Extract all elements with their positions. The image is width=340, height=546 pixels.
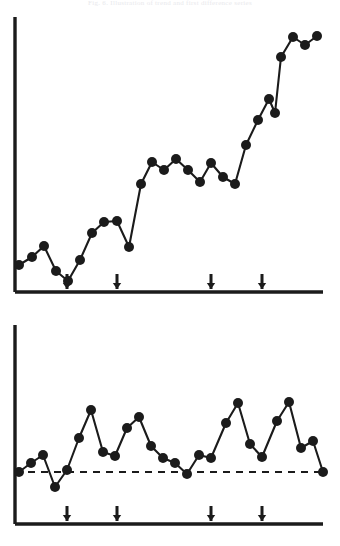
data-point-marker	[124, 242, 134, 252]
data-point-marker	[241, 140, 251, 150]
data-point-marker	[276, 52, 286, 62]
data-point-marker	[39, 241, 49, 251]
top-panel-chart	[0, 0, 340, 300]
arrow-up-icon-head	[258, 283, 266, 289]
data-point-marker	[134, 412, 144, 422]
data-line	[19, 36, 317, 281]
data-point-marker	[264, 94, 274, 104]
arrow-up-icon-head	[207, 515, 215, 521]
data-point-marker	[75, 255, 85, 265]
data-point-marker	[284, 397, 294, 407]
data-point-marker	[270, 108, 280, 118]
figure-root: Fig. 6. Illustration of trend and first …	[0, 0, 340, 546]
data-point-marker	[14, 467, 24, 477]
data-point-marker	[62, 465, 72, 475]
data-point-marker	[99, 217, 109, 227]
data-point-marker	[253, 115, 263, 125]
data-point-marker	[194, 450, 204, 460]
data-point-marker	[171, 154, 181, 164]
bottom-panel-event-arrows	[63, 506, 266, 521]
data-point-marker	[272, 416, 282, 426]
arrow-up-icon-head	[207, 283, 215, 289]
data-point-marker	[318, 467, 328, 477]
arrow-up-icon-head	[113, 283, 121, 289]
top-panel-event-arrows	[63, 274, 266, 289]
arrow-up-icon-head	[113, 515, 121, 521]
arrow-up-icon-head	[258, 515, 266, 521]
data-point-marker	[308, 436, 318, 446]
data-point-marker	[98, 447, 108, 457]
data-point-marker	[206, 158, 216, 168]
data-point-marker	[146, 441, 156, 451]
data-point-marker	[183, 165, 193, 175]
bottom-panel-series	[14, 397, 328, 492]
data-point-marker	[195, 177, 205, 187]
data-point-marker	[147, 157, 157, 167]
data-point-marker	[86, 405, 96, 415]
data-point-marker	[230, 179, 240, 189]
data-point-marker	[245, 439, 255, 449]
data-point-marker	[182, 469, 192, 479]
data-point-marker	[221, 418, 231, 428]
data-point-marker	[110, 451, 120, 461]
data-point-marker	[38, 450, 48, 460]
data-point-marker	[27, 252, 37, 262]
data-point-marker	[74, 433, 84, 443]
arrow-up-icon-head	[63, 283, 71, 289]
data-point-marker	[14, 260, 24, 270]
data-point-marker	[300, 40, 310, 50]
data-point-marker	[233, 398, 243, 408]
data-point-marker	[158, 453, 168, 463]
arrow-up-icon-head	[63, 515, 71, 521]
data-point-marker	[296, 443, 306, 453]
data-point-marker	[257, 452, 267, 462]
data-point-marker	[112, 216, 122, 226]
data-point-marker	[159, 165, 169, 175]
data-point-marker	[51, 266, 61, 276]
data-point-marker	[206, 453, 216, 463]
top-panel-series	[14, 31, 322, 286]
data-point-marker	[218, 172, 228, 182]
data-point-marker	[50, 482, 60, 492]
data-point-marker	[122, 423, 132, 433]
data-point-marker	[170, 458, 180, 468]
data-point-marker	[26, 458, 36, 468]
data-point-marker	[87, 228, 97, 238]
bottom-panel-chart	[0, 300, 340, 546]
data-point-marker	[288, 32, 298, 42]
data-point-marker	[136, 179, 146, 189]
data-point-marker	[312, 31, 322, 41]
